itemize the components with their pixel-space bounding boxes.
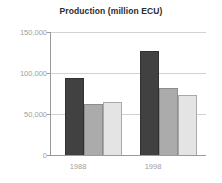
x-tick-label-1998: 1998 [131,162,175,171]
y-tick-label-50000: 50,000 [3,110,47,119]
bar-1988-series-3 [103,102,122,155]
y-tick-mark-150000 [47,32,50,33]
bar-1988-series-2 [84,104,103,155]
y-tick-mark-50000 [47,114,50,115]
bar-1998-series-2 [159,88,178,155]
y-tick-label-100000: 100,000 [3,69,47,78]
bar-1988-series-1 [65,78,84,155]
y-tick-label-150000: 150,000 [3,28,47,37]
plot-area [50,32,205,156]
bar-chart: Production (million ECU) 150,000 100,000… [0,0,222,183]
bar-1998-series-3 [178,95,197,155]
bar-group-1998 [140,32,197,155]
x-axis-line [51,155,206,156]
y-axis-labels: 150,000 100,000 50,000 0 [0,0,47,183]
bar-group-1988 [65,32,122,155]
y-tick-mark-0 [47,155,50,156]
x-tick-label-1988: 1988 [56,162,100,171]
y-tick-mark-100000 [47,73,50,74]
y-tick-label-0: 0 [3,151,47,160]
bar-1998-series-1 [140,51,159,155]
